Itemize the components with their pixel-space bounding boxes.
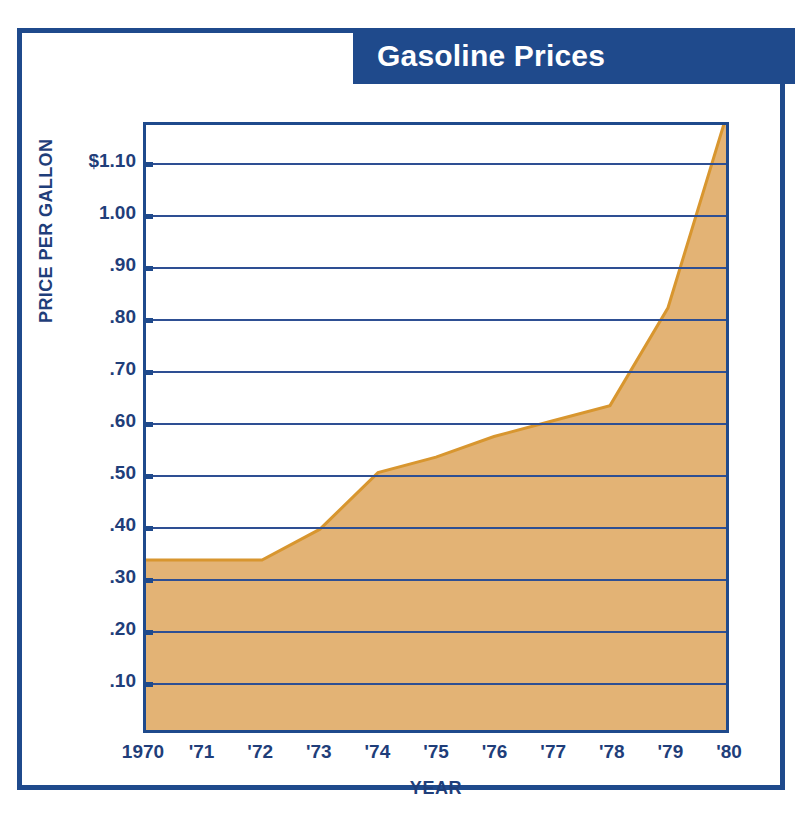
gridline [146,527,726,529]
x-axis-tick-label: '72 [247,741,273,763]
y-axis-tick-label: 1.00 [99,202,136,224]
y-axis-tick-label: .60 [110,410,136,432]
x-axis-tick-labels: 1970'71'72'73'74'75'76'77'78'79'80 [143,741,729,771]
gridline [146,423,726,425]
y-axis-tick [143,214,153,219]
x-axis-tick-label: 1970 [122,741,164,763]
x-axis-tick-label: '77 [540,741,566,763]
gridline [146,215,726,217]
gridline [146,631,726,633]
y-axis-tick-labels: $1.101.00.90.80.70.60.50.40.30.20.10 [52,122,136,733]
x-axis-tick-label: '79 [658,741,684,763]
x-axis-tick-label: '76 [482,741,508,763]
x-axis-tick-label: '80 [716,741,742,763]
y-axis-tick-label: .70 [110,358,136,380]
y-axis-tick [143,162,153,167]
y-axis-tick-label: .90 [110,254,136,276]
gridline [146,163,726,165]
x-axis-tick-label: '74 [365,741,391,763]
gridline [146,475,726,477]
y-axis-tick [143,474,153,479]
gridline [146,683,726,685]
gridline [146,267,726,269]
x-axis-tick-label: '73 [306,741,332,763]
plot-area [143,122,729,733]
y-axis-tick [143,370,153,375]
y-axis-tick-label: .40 [110,514,136,536]
y-axis-tick [143,266,153,271]
y-axis-tick-label: .30 [110,566,136,588]
y-axis-tick [143,318,153,323]
figure-card: Gasoline Prices PRICE PER GALLON $1.101.… [17,28,785,790]
y-axis-tick [143,682,153,687]
y-axis-tick [143,578,153,583]
gridline [146,579,726,581]
gridline [146,371,726,373]
y-axis-tick-label: .20 [110,618,136,640]
chart-area: PRICE PER GALLON $1.101.00.90.80.70.60.5… [22,33,780,785]
y-axis-tick-label: $1.10 [88,150,136,172]
x-axis-tick-label: '75 [423,741,449,763]
y-axis-tick [143,526,153,531]
x-axis-tick-label: '78 [599,741,625,763]
y-axis-tick-label: .50 [110,462,136,484]
x-axis-title: YEAR [143,778,729,799]
x-axis-tick-label: '71 [189,741,215,763]
y-axis-tick-label: .80 [110,306,136,328]
y-axis-tick-label: .10 [110,670,136,692]
y-axis-tick [143,630,153,635]
y-axis-tick [143,422,153,427]
gridline [146,319,726,321]
